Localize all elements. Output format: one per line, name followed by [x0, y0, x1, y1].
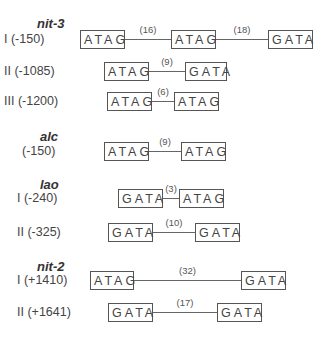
- motif-box: ATAG: [179, 189, 224, 208]
- motif-box: GATA: [185, 62, 227, 81]
- spacer-line: [163, 198, 179, 199]
- spacer-length: (9): [149, 136, 181, 147]
- spacer-line: [134, 280, 241, 281]
- motif-box: GATA: [241, 271, 286, 290]
- site-label: I (-240): [17, 191, 57, 205]
- spacer-line: [216, 39, 268, 40]
- gene-name: alc: [40, 129, 58, 144]
- motif-box: ATAG: [174, 92, 219, 111]
- spacer-length: (3): [163, 183, 179, 194]
- motif-box: ATAG: [181, 142, 226, 161]
- motif-box: GATA: [217, 303, 262, 322]
- spacer-line: [149, 71, 185, 72]
- site-label: III (-1200): [4, 94, 58, 108]
- motif-box: ATAG: [107, 92, 152, 111]
- motif-box: ATAG: [90, 271, 134, 290]
- site-label: II (-1085): [4, 64, 55, 78]
- spacer-length: (10): [153, 217, 195, 228]
- motif-box: GATA: [108, 223, 153, 242]
- spacer-length: (9): [149, 56, 185, 67]
- site-label: II (+1641): [17, 305, 71, 319]
- spacer-length: (16): [125, 24, 171, 35]
- site-label: I (-150): [4, 32, 44, 46]
- spacer-line: [125, 39, 171, 40]
- spacer-line: [153, 232, 195, 233]
- motif-box: ATAG: [171, 30, 216, 49]
- spacer-line: [153, 312, 217, 313]
- spacer-length: (18): [216, 24, 268, 35]
- motif-box: GATA: [118, 189, 163, 208]
- motif-box: ATAG: [104, 62, 149, 81]
- motif-box: GATA: [108, 303, 153, 322]
- motif-box: GATA: [195, 223, 240, 242]
- site-label: I (+1410): [17, 273, 67, 287]
- motif-box: ATAG: [104, 142, 149, 161]
- site-label: II (-325): [17, 225, 61, 239]
- spacer-length: (17): [153, 297, 217, 308]
- spacer-line: [149, 151, 181, 152]
- spacer-length: (6): [152, 86, 174, 97]
- motif-box: GATA: [268, 30, 313, 49]
- site-label: (-150): [22, 144, 55, 158]
- gene-name: nit-2: [37, 259, 64, 274]
- spacer-length: (32): [134, 265, 241, 276]
- gene-name: nit-3: [37, 16, 64, 31]
- motif-box: ATAG: [80, 30, 125, 49]
- spacer-line: [152, 101, 174, 102]
- gene-name: lao: [40, 177, 59, 192]
